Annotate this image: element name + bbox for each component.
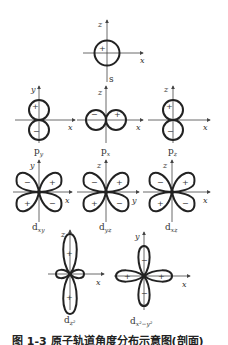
sign: + xyxy=(166,102,173,111)
sign: + xyxy=(49,178,56,187)
sign: − xyxy=(157,178,164,187)
sign: + xyxy=(157,199,164,208)
sign: − xyxy=(141,289,148,298)
nucleus-dot xyxy=(68,272,72,276)
nucleus-dot xyxy=(104,190,108,194)
nucleus-dot xyxy=(142,274,147,279)
sign: + xyxy=(182,178,189,187)
y-axis-label: y xyxy=(134,232,140,241)
sign: − xyxy=(116,199,123,208)
z-axis-label: z xyxy=(60,230,66,239)
figure-caption: 图 1-3 原子轨道角度分布示意图(剖面) xyxy=(12,334,222,345)
orbital-label-pz: pz xyxy=(168,146,178,157)
z-axis-label: z xyxy=(163,85,169,94)
px-orbital: z x − + px xyxy=(77,86,143,157)
orbital-label-dz2: dz² xyxy=(64,315,76,326)
x-axis-label: x xyxy=(136,123,141,132)
sign: − xyxy=(182,199,189,208)
sign: + xyxy=(66,249,73,258)
y-axis-label: y xyxy=(29,161,35,170)
nucleus-dot xyxy=(170,190,174,194)
sign: + xyxy=(158,272,165,281)
z-axis-label: z xyxy=(162,161,168,170)
orbital-label-px: px xyxy=(101,146,111,157)
x-axis-label: x xyxy=(203,123,208,132)
sign: − xyxy=(33,127,40,136)
x-axis-label: x xyxy=(140,56,145,65)
dyz-orbital: z y − + + − dyz xyxy=(77,160,139,234)
dxy-orbital: y x − + + − dxy xyxy=(13,160,72,234)
sign: − xyxy=(49,199,56,208)
sign: + xyxy=(24,199,31,208)
sign-plus: + xyxy=(99,44,106,53)
dz2-orbital: z x + + dz² xyxy=(48,230,104,326)
x-axis-label: x xyxy=(182,280,187,289)
orbital-label-py: py xyxy=(34,146,44,158)
sign: + xyxy=(32,102,39,111)
z-axis-label: z xyxy=(96,161,102,170)
nucleus-dot xyxy=(37,190,41,194)
sign: − xyxy=(91,178,98,187)
s-orbital: z x + s xyxy=(83,20,145,84)
orbital-label-dxy: dxy xyxy=(32,222,45,234)
sign: + xyxy=(116,178,123,187)
y-axis-label: y xyxy=(131,196,137,205)
sign: + xyxy=(124,272,131,281)
sign: − xyxy=(24,178,31,187)
sign: + xyxy=(114,110,121,119)
z-axis-label: z xyxy=(97,20,103,29)
sign: − xyxy=(167,127,174,136)
sign: + xyxy=(91,199,98,208)
y-axis-label: y xyxy=(30,85,36,94)
py-orbital: y x + − py xyxy=(15,85,75,158)
orbital-label-dxz: dxz xyxy=(165,222,178,233)
x-axis-label: x xyxy=(65,196,70,205)
dx2y2-orbital: y x − + + − dx²−y² xyxy=(114,232,190,328)
pz-orbital: z x + − pz xyxy=(148,85,210,157)
orbital-label-s: s xyxy=(109,74,114,84)
x-axis-label: x xyxy=(96,278,101,287)
sign: − xyxy=(141,256,148,265)
sign: − xyxy=(91,110,98,119)
x-axis-label: x xyxy=(203,196,208,205)
sign: + xyxy=(66,293,73,302)
orbital-label-dx2y2: dx²−y² xyxy=(130,316,153,328)
x-axis-label: x xyxy=(68,123,73,132)
orbital-label-dyz: dyz xyxy=(99,222,112,234)
dxz-orbital: z x − + + − dxz xyxy=(143,160,210,233)
orbital-diagram: z x + s y x + − py z x − + px z x + − xyxy=(0,0,228,345)
z-axis-label: z xyxy=(97,88,103,97)
